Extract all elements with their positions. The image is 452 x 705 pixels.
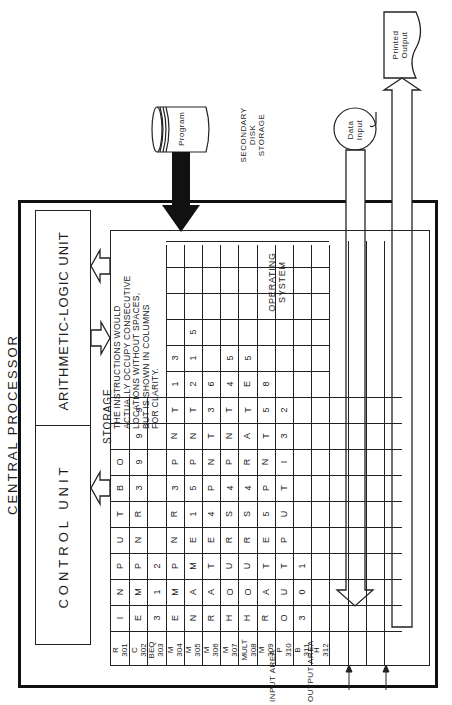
input-area-pointer-icon (346, 665, 352, 690)
area-pointers (0, 0, 452, 705)
output-area-pointer-icon (383, 665, 389, 690)
